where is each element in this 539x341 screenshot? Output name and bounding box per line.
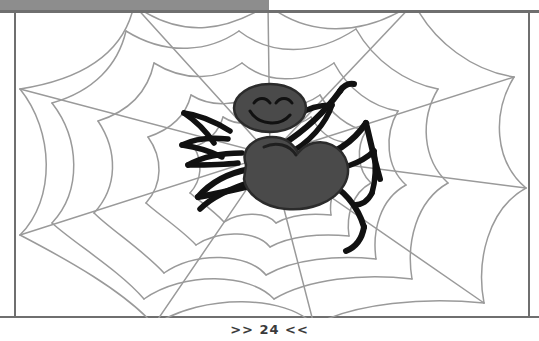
- window-chrome-bar: [0, 0, 269, 10]
- spider-abdomen: [244, 137, 348, 209]
- spider-on-web-illustration: [14, 13, 530, 318]
- page-footer: >> 24 <<: [0, 318, 539, 341]
- illustration-frame: [14, 13, 530, 318]
- spider-leg-left-3: [188, 153, 242, 165]
- spider-head: [234, 84, 306, 132]
- page-number-indicator: >> 24 <<: [230, 322, 309, 337]
- page-root: >> 24 <<: [0, 0, 539, 341]
